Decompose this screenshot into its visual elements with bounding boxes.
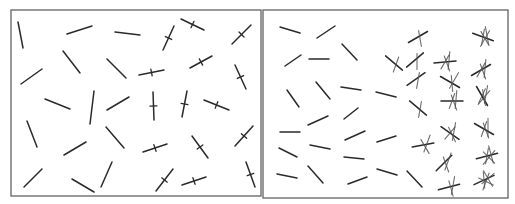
- right-panel-frame: [263, 10, 508, 198]
- left-panel-uniform-texture: [11, 10, 261, 196]
- stimulus-figure: [0, 0, 515, 204]
- right-panel-gradient-texture: [263, 10, 508, 198]
- left-panel-frame: [11, 10, 261, 196]
